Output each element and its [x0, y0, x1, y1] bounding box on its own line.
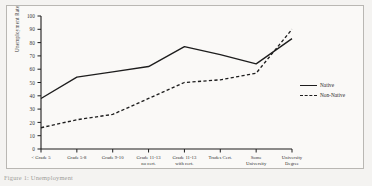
y-tick-label: 10 [19, 133, 35, 139]
y-tick-label: 20 [19, 120, 35, 126]
y-tick-label: 0 [19, 146, 35, 152]
y-tick-label: 60 [19, 66, 35, 72]
y-tick-label: 40 [19, 93, 35, 99]
x-tick-label: UniversityDegree [268, 155, 316, 166]
y-tick-label: 30 [19, 106, 35, 112]
y-tick-label: 80 [19, 40, 35, 46]
series-line-native [41, 39, 292, 99]
figure-caption: Figure 1: Unemployment [4, 174, 368, 181]
axis-lines [41, 16, 292, 149]
y-tick-label: 100 [19, 13, 35, 19]
y-tick-label: 50 [19, 80, 35, 86]
series-line-non-native [41, 29, 292, 127]
legend-item-non-native: Non-Native [300, 90, 345, 100]
legend-swatch-dashed-icon [300, 92, 317, 98]
y-tick-label: 90 [19, 26, 35, 32]
legend-item-native: Native [300, 80, 345, 90]
legend-label-native: Native [320, 82, 334, 88]
y-tick-label: 70 [19, 53, 35, 59]
chart-legend: Native Non-Native [300, 80, 345, 100]
legend-swatch-solid-icon [300, 82, 317, 88]
legend-label-non-native: Non-Native [320, 92, 345, 98]
figure-root: Unemployment Rate 1009080706050403020100… [0, 0, 372, 186]
